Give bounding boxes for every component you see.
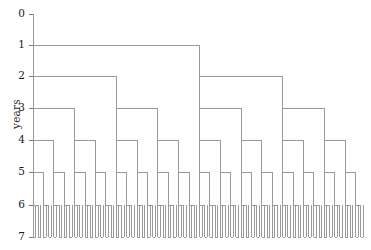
tree-diagram-figure: years 01234567 — [0, 0, 371, 250]
tree-plot-area — [0, 0, 371, 250]
y-axis-line-group — [29, 14, 33, 237]
tree-branch-group — [33, 14, 363, 237]
